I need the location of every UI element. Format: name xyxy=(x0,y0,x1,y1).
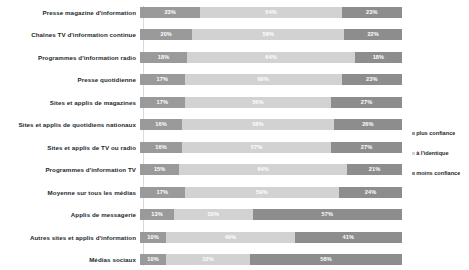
bar-segment-a: 13% xyxy=(140,209,174,220)
row-category-label: Applis de messagerie xyxy=(0,211,140,218)
bar-segment-a: 17% xyxy=(140,187,185,198)
chart-row: Sites et applis de TV ou radio16%57%27% xyxy=(0,141,469,154)
row-category-label: Sites et applis de quotidiens nationaux xyxy=(0,121,140,128)
bar-segment-c: 23% xyxy=(342,7,402,18)
chart-legend: plus confianceà l'identiquemoins confian… xyxy=(412,130,469,177)
row-category-label: Moyenne sur tous les médias xyxy=(0,189,140,196)
bar-segment-b: 60% xyxy=(185,74,342,85)
chart-row: Médias sociaux10%32%58% xyxy=(0,253,469,266)
chart-row: Presse quotidienne17%60%23% xyxy=(0,73,469,86)
bar-segment-b: 32% xyxy=(166,254,250,265)
row-category-label: Presse magazine d'information xyxy=(0,9,140,16)
bar-segment-b: 58% xyxy=(192,29,344,40)
row-category-label: Sites et applis de magazines xyxy=(0,99,140,106)
bar-segment-b: 58% xyxy=(182,119,334,130)
bar-segment-c: 27% xyxy=(331,97,402,108)
stacked-bar: 17%59%24% xyxy=(140,187,402,198)
stacked-bar: 10%32%58% xyxy=(140,254,402,265)
stacked-bar: 18%64%18% xyxy=(140,52,402,63)
stacked-bar: 10%49%41% xyxy=(140,232,402,243)
chart-row: Chaînes TV d'information continue20%58%2… xyxy=(0,28,469,41)
legend-label: à l'identique xyxy=(416,150,448,157)
bar-segment-b: 64% xyxy=(187,52,355,63)
legend-label: plus confiance xyxy=(416,130,455,137)
legend-item: à l'identique xyxy=(412,150,469,157)
row-category-label: Chaînes TV d'information continue xyxy=(0,31,140,38)
legend-item: plus confiance xyxy=(412,130,469,137)
chart-row: Applis de messagerie13%30%57% xyxy=(0,208,469,221)
bar-segment-a: 18% xyxy=(140,52,187,63)
bar-segment-c: 26% xyxy=(334,119,402,130)
row-category-label: Médias sociaux xyxy=(0,256,140,263)
chart-row: Autres sites et applis d'information10%4… xyxy=(0,231,469,244)
bar-segment-c: 21% xyxy=(347,164,402,175)
row-category-label: Programmes d'information radio xyxy=(0,54,140,61)
row-category-label: Autres sites et applis d'information xyxy=(0,234,140,241)
bar-segment-c: 24% xyxy=(339,187,402,198)
bar-segment-a: 10% xyxy=(140,254,166,265)
category-axis-line xyxy=(143,6,144,266)
bar-segment-c: 18% xyxy=(355,52,402,63)
bar-segment-a: 16% xyxy=(140,142,182,153)
chart-row: Moyenne sur tous les médias17%59%24% xyxy=(0,186,469,199)
chart-row: Programmes d'information radio18%64%18% xyxy=(0,51,469,64)
bar-segment-b: 57% xyxy=(182,142,331,153)
stacked-bar: 16%58%26% xyxy=(140,119,402,130)
chart-plot-area: Presse magazine d'information23%54%23%Ch… xyxy=(0,6,469,266)
row-category-label: Presse quotidienne xyxy=(0,76,140,83)
legend-swatch-icon xyxy=(412,132,415,135)
legend-item: moins confiance xyxy=(412,170,469,177)
bar-segment-c: 27% xyxy=(331,142,402,153)
bar-segment-b: 54% xyxy=(200,7,341,18)
chart-row: Programmes d'information TV15%64%21% xyxy=(0,163,469,176)
bar-segment-b: 49% xyxy=(166,232,294,243)
bar-segment-c: 22% xyxy=(344,29,402,40)
legend-swatch-icon xyxy=(412,172,415,175)
bar-segment-c: 23% xyxy=(342,74,402,85)
stacked-bar: 13%30%57% xyxy=(140,209,402,220)
chart-row: Sites et applis de magazines17%56%27% xyxy=(0,96,469,109)
legend-label: moins confiance xyxy=(416,170,460,177)
bar-segment-a: 17% xyxy=(140,97,185,108)
bar-segment-c: 41% xyxy=(295,232,402,243)
chart-row: Presse magazine d'information23%54%23% xyxy=(0,6,469,19)
bar-segment-a: 23% xyxy=(140,7,200,18)
stacked-bar: 23%54%23% xyxy=(140,7,402,18)
bar-segment-a: 17% xyxy=(140,74,185,85)
legend-swatch-icon xyxy=(412,152,415,155)
bar-segment-b: 30% xyxy=(174,209,253,220)
stacked-bar: 17%56%27% xyxy=(140,97,402,108)
stacked-bar: 17%60%23% xyxy=(140,74,402,85)
bar-segment-c: 57% xyxy=(253,209,402,220)
bar-segment-b: 56% xyxy=(185,97,332,108)
chart-row: Sites et applis de quotidiens nationaux1… xyxy=(0,118,469,131)
bar-segment-c: 58% xyxy=(250,254,402,265)
bar-segment-a: 15% xyxy=(140,164,179,175)
bar-segment-a: 16% xyxy=(140,119,182,130)
bar-segment-a: 10% xyxy=(140,232,166,243)
row-category-label: Sites et applis de TV ou radio xyxy=(0,144,140,151)
stacked-bar-chart: Presse magazine d'information23%54%23%Ch… xyxy=(0,0,469,270)
bar-segment-b: 64% xyxy=(179,164,347,175)
row-category-label: Programmes d'information TV xyxy=(0,166,140,173)
stacked-bar: 16%57%27% xyxy=(140,142,402,153)
bar-segment-a: 20% xyxy=(140,29,192,40)
stacked-bar: 20%58%22% xyxy=(140,29,402,40)
stacked-bar: 15%64%21% xyxy=(140,164,402,175)
bar-segment-b: 59% xyxy=(185,187,340,198)
